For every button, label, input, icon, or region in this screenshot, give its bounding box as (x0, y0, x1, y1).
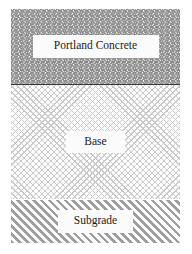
pavement-cross-section-diagram: Portland Concrete Base Subgrade (11, 9, 180, 243)
layer-label-subgrade: Subgrade (58, 210, 133, 233)
layer-label-base: Base (66, 131, 124, 154)
layer-base: Base (11, 85, 180, 199)
layer-subgrade: Subgrade (11, 200, 180, 243)
layer-portland-concrete: Portland Concrete (11, 9, 180, 85)
layer-label-portland-concrete: Portland Concrete (33, 35, 159, 58)
